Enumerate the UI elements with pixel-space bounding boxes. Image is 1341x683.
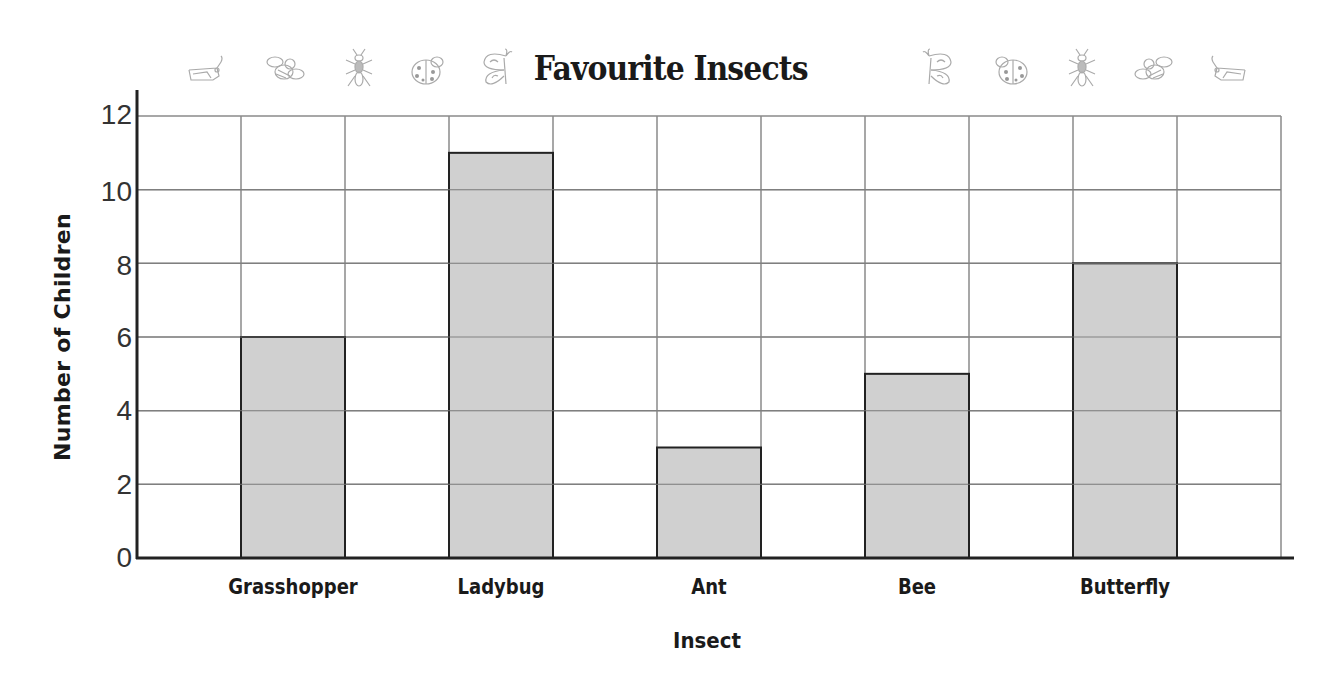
- y-tick-0: 0: [88, 544, 132, 572]
- y-tick-6: 6: [88, 324, 132, 352]
- y-axis-label: Number of Children: [50, 213, 75, 461]
- y-tick-4: 4: [88, 397, 132, 425]
- bar-bee: [865, 374, 969, 558]
- y-tick-2: 2: [88, 471, 132, 499]
- y-tick-10: 10: [88, 178, 132, 206]
- x-tick-ant: Ant: [627, 574, 791, 599]
- y-tick-8: 8: [88, 252, 132, 280]
- x-tick-ladybug: Ladybug: [419, 574, 583, 599]
- x-axis-label: Insect: [617, 628, 797, 653]
- x-tick-butterfly: Butterfly: [1043, 574, 1207, 599]
- y-tick-12: 12: [88, 101, 132, 129]
- bar-ant: [657, 448, 761, 559]
- x-tick-grasshopper: Grasshopper: [211, 574, 375, 599]
- bar-ladybug: [449, 153, 553, 558]
- x-tick-bee: Bee: [835, 574, 999, 599]
- bar-grasshopper: [241, 337, 345, 558]
